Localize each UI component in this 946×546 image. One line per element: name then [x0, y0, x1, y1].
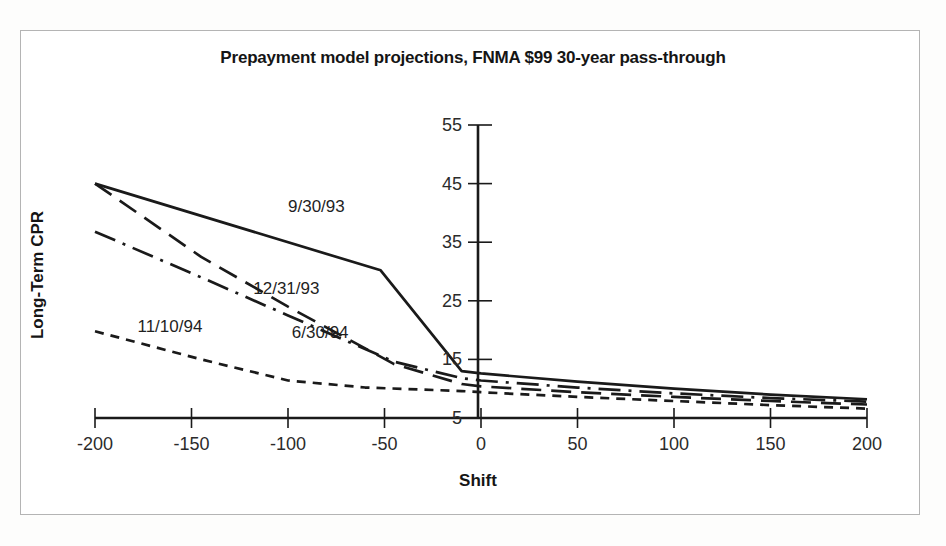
y-tick-label: 55 — [420, 115, 462, 136]
series-line-9-30-93 — [95, 184, 867, 400]
series-line-12-31-93 — [95, 232, 867, 402]
y-tick-label: 15 — [420, 349, 462, 370]
x-tick-label: 100 — [659, 434, 689, 455]
axes — [95, 125, 867, 428]
plot-area — [0, 0, 946, 546]
x-tick-label: 150 — [755, 434, 785, 455]
series-label-9-30-93: 9/30/93 — [288, 197, 345, 217]
x-tick-label: -50 — [371, 434, 397, 455]
x-tick-label: -200 — [77, 434, 113, 455]
y-axis-title: Long-Term CPR — [28, 211, 48, 339]
series-label-12-31-93: 12/31/93 — [253, 279, 319, 299]
series-line-6-30-94 — [95, 184, 867, 405]
chart-figure: Prepayment model projections, FNMA $99 3… — [0, 0, 946, 546]
x-tick-label: -100 — [270, 434, 306, 455]
y-tick-label: 5 — [420, 408, 462, 429]
data-series-group — [95, 184, 867, 409]
x-axis-title: Shift — [459, 471, 497, 491]
x-tick-label: -150 — [173, 434, 209, 455]
x-tick-label: 0 — [476, 434, 486, 455]
series-label-6-30-94: 6/30/94 — [292, 323, 349, 343]
y-tick-label: 25 — [420, 290, 462, 311]
series-line-11-10-94 — [95, 331, 867, 408]
x-tick-label: 200 — [852, 434, 882, 455]
y-tick-label: 35 — [420, 232, 462, 253]
x-tick-label: 50 — [567, 434, 587, 455]
y-tick-label: 45 — [420, 173, 462, 194]
series-label-11-10-94: 11/10/94 — [137, 317, 202, 337]
